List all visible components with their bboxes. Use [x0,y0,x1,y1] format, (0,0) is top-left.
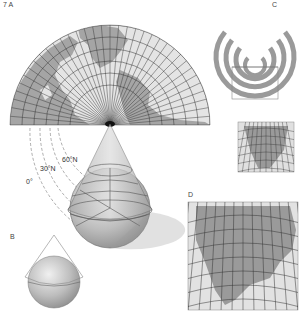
panel-b-globe [28,256,80,308]
latitude-label-0: 0° [26,178,33,185]
latitude-label-30n: 30°N [40,165,56,172]
d-parallel [186,313,300,321]
panel-a-fan [0,15,220,127]
latitude-label-60n: 60°N [62,156,78,163]
cone-globe [68,124,185,249]
d-meridian [177,200,189,312]
panel-c-arcs [216,32,294,99]
panel-d-map [177,200,305,321]
conic-projection-figure: 60°N 30°N 0° [0,0,305,324]
panel-c-inset-map [236,120,296,174]
panel-b-globe-cone [25,235,83,308]
